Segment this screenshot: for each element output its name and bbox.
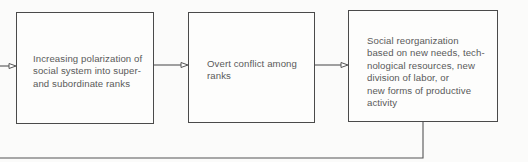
arrow-box2-to-box3-icon	[341, 63, 348, 68]
node-conflict: Overt conflict among ranks	[188, 12, 315, 123]
node-reorganization-label: Social reorganization based on new needs…	[367, 35, 485, 109]
node-polarization: Increasing polarization of social system…	[16, 12, 154, 124]
node-reorganization: Social reorganization based on new needs…	[348, 10, 498, 122]
arrow-into-box1-icon	[9, 64, 16, 69]
node-polarization-label: Increasing polarization of social system…	[33, 53, 142, 90]
arrow-box1-to-box2-icon	[181, 63, 188, 68]
node-conflict-label: Overt conflict among ranks	[207, 58, 297, 83]
